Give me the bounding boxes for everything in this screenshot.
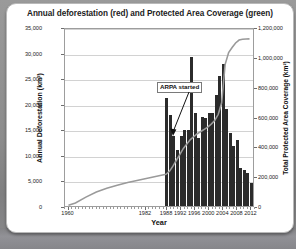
x-axis-minor-tick [141, 207, 142, 209]
x-axis-tick-label: 1960 [61, 210, 73, 216]
y-axis-left-tick-label: 0 [6, 204, 42, 210]
x-axis-minor-tick [103, 207, 104, 209]
x-axis-minor-tick [85, 207, 86, 209]
x-axis-minor-tick [138, 207, 139, 209]
x-axis-tick [166, 207, 167, 210]
x-axis-title: Year [64, 218, 254, 227]
x-axis-tick [180, 207, 181, 210]
x-axis-tick-label: 2000 [202, 210, 214, 216]
x-axis-minor-tick [215, 207, 216, 209]
x-axis-minor-tick [198, 207, 199, 209]
y-axis-left-tick-label: 35,000 [6, 25, 42, 31]
x-axis-minor-tick [177, 207, 178, 209]
x-axis-minor-tick [89, 207, 90, 209]
x-axis-minor-tick [148, 207, 149, 209]
y-axis-right-tick [254, 28, 257, 29]
x-axis-minor-tick [152, 207, 153, 209]
x-axis-minor-tick [229, 207, 230, 209]
x-axis-minor-tick [254, 207, 255, 209]
x-axis-tick [68, 207, 69, 210]
x-axis-minor-tick [92, 207, 93, 209]
x-axis-minor-tick [82, 207, 83, 209]
x-axis-tick-label: 1996 [188, 210, 200, 216]
x-axis-minor-tick [243, 207, 244, 209]
x-axis-tick [222, 207, 223, 210]
x-axis-tick [194, 207, 195, 210]
y-axis-right-tick-label: 400,000 [258, 144, 294, 150]
y-axis-left-tick-label: 25,000 [6, 76, 42, 82]
x-axis-minor-tick [226, 207, 227, 209]
y-axis-right-tick [254, 88, 257, 89]
x-axis-minor-tick [187, 207, 188, 209]
x-axis-minor-tick [64, 207, 65, 209]
x-axis-minor-tick [240, 207, 241, 209]
x-axis-minor-tick [110, 207, 111, 209]
y-axis-right-tick-label: 1,000,000 [258, 55, 294, 61]
x-axis-minor-tick [184, 207, 185, 209]
x-axis-tick [145, 207, 146, 210]
x-axis-minor-tick [131, 207, 132, 209]
x-axis-tick-label: 1982 [139, 210, 151, 216]
x-axis-minor-tick [134, 207, 135, 209]
y-axis-right-tick-label: 200,000 [258, 174, 294, 180]
x-axis-minor-tick [117, 207, 118, 209]
x-axis-minor-tick [159, 207, 160, 209]
x-axis-minor-tick [155, 207, 156, 209]
x-axis-minor-tick [212, 207, 213, 209]
y-axis-left-tick-label: 5,000 [6, 178, 42, 184]
arpa-annotation-arrow-icon [147, 88, 207, 144]
x-axis-tick [250, 207, 251, 210]
y-axis-right-tick [254, 118, 257, 119]
y-axis-right-tick-label: 800,000 [258, 85, 294, 91]
x-axis-minor-tick [219, 207, 220, 209]
y-axis-right-tick [254, 58, 257, 59]
y-axis-left-tick-label: 10,000 [6, 153, 42, 159]
x-axis-minor-tick [205, 207, 206, 209]
x-axis-tick [208, 207, 209, 210]
y-axis-right-tick-label: 1,200,000 [258, 25, 294, 31]
x-axis-tick-label: 2012 [244, 210, 256, 216]
x-axis-tick-label: 2008 [230, 210, 242, 216]
x-axis-tick-label: 1992 [174, 210, 186, 216]
x-axis-minor-tick [99, 207, 100, 209]
x-axis-minor-tick [124, 207, 125, 209]
y-axis-right-tick [254, 177, 257, 178]
x-axis-minor-tick [233, 207, 234, 209]
x-axis-tick-label: 2004 [216, 210, 228, 216]
x-axis-minor-tick [247, 207, 248, 209]
x-axis-tick-label: 1988 [160, 210, 172, 216]
y-axis-right-tick [254, 147, 257, 148]
x-axis-minor-tick [75, 207, 76, 209]
x-axis-minor-tick [71, 207, 72, 209]
y-axis-left-tick-label: 20,000 [6, 102, 42, 108]
y-axis-left-tick-label: 15,000 [6, 127, 42, 133]
x-axis-minor-tick [191, 207, 192, 209]
x-axis-minor-tick [170, 207, 171, 209]
chart-title: Annual deforestation (red) and Protected… [7, 9, 293, 18]
y-axis-right-tick-label: 600,000 [258, 115, 294, 121]
x-axis-minor-tick [113, 207, 114, 209]
x-axis-minor-tick [127, 207, 128, 209]
x-axis-minor-tick [78, 207, 79, 209]
x-axis-tick [236, 207, 237, 210]
x-axis-minor-tick [163, 207, 164, 209]
x-axis-minor-tick [120, 207, 121, 209]
y-axis-right-tick-label: 0 [258, 204, 294, 210]
x-axis-minor-tick [201, 207, 202, 209]
chart-card: Annual deforestation (red) and Protected… [6, 3, 294, 233]
x-axis-minor-tick [173, 207, 174, 209]
y-axis-left-tick-label: 30,000 [6, 51, 42, 57]
x-axis-minor-tick [106, 207, 107, 209]
x-axis-minor-tick [96, 207, 97, 209]
